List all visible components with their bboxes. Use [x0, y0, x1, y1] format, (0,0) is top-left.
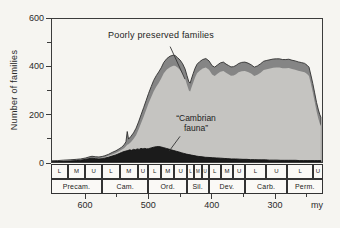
x-tick-minor	[243, 194, 244, 198]
y-tick	[47, 90, 51, 91]
timescale-period-carb: Carb.	[245, 179, 287, 194]
timescale-sub-l: L	[245, 164, 265, 179]
x-tick-major	[85, 194, 86, 199]
y-tick	[46, 114, 51, 115]
timescale-sub-u: U	[266, 164, 288, 179]
timescale-sub-u: U	[174, 164, 187, 179]
timescale-sub-l: L	[102, 164, 120, 179]
x-tick-label: 500	[133, 200, 163, 210]
x-tick-minor	[180, 194, 181, 198]
label-poorly-preserved-families: Poorly preserved families	[108, 30, 214, 40]
x-tick-label: 300	[260, 200, 290, 210]
label-cambrian-fauna: “Cambrian fauna”	[176, 113, 216, 133]
x-tick-major	[148, 194, 149, 199]
timescale-sub-m: M	[68, 164, 85, 179]
timescale-sub-l: L	[187, 164, 194, 179]
y-tick	[47, 42, 51, 43]
timescale-sub-u: U	[313, 164, 323, 179]
timescale-sub-u: U	[138, 164, 149, 179]
y-tick	[47, 138, 51, 139]
y-tick-label: 600	[20, 13, 44, 23]
x-tick-major	[275, 194, 276, 199]
timescale-sub-m: M	[221, 164, 234, 179]
y-tick-label: 200	[20, 110, 44, 120]
y-tick-label: 400	[20, 61, 44, 71]
timescale-sub-l: L	[287, 164, 313, 179]
timescale-sub-l: L	[209, 164, 221, 179]
timescale-sub-m: M	[161, 164, 174, 179]
timescale-period-dev: Dev.	[209, 179, 246, 194]
timescale-sub-u: U	[233, 164, 245, 179]
timescale-period-ord: Ord.	[148, 179, 187, 194]
timescale-sub-l: L	[51, 164, 68, 179]
y-tick	[46, 66, 51, 67]
x-tick-label: 600	[70, 200, 100, 210]
timescale-period-perm: Perm.	[287, 179, 322, 194]
x-tick-major	[211, 194, 212, 199]
x-axis-unit-label: my	[304, 200, 330, 210]
y-tick-label: 0	[20, 158, 44, 168]
y-tick	[46, 18, 51, 19]
area-chart-canvas	[52, 19, 322, 162]
x-tick-label: 400	[197, 200, 227, 210]
timescale-period-precam: Precam.	[51, 179, 102, 194]
x-tick-minor	[306, 194, 307, 198]
timescale-period-sil: Sil.	[187, 179, 209, 194]
x-tick-minor	[116, 194, 117, 198]
timescale-sub-u: U	[85, 164, 102, 179]
diversity-chart-figure: Number of families Poorly preserved fami…	[0, 0, 340, 228]
y-axis-title: Number of families	[9, 50, 19, 130]
timescale-sub-l: L	[148, 164, 161, 179]
timescale-sub-m: M	[194, 164, 202, 179]
timescale-period-cam: Cam.	[102, 179, 148, 194]
timescale-sub-u: U	[202, 164, 209, 179]
timescale-sub-m: M	[120, 164, 138, 179]
